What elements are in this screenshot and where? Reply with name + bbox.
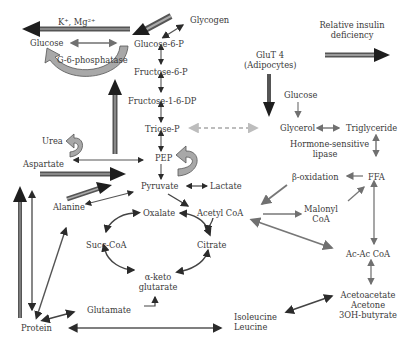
label-isoleucine-leucine: Isoleucine Leucine [234,312,277,332]
label-glut4: GluT 4 (Adipocytes) [244,50,296,70]
label-3oh-butyrate: 3OH-butyrate [335,310,401,320]
insulin-deficiency-arrow [325,48,390,62]
label-glycerol: Glycerol [280,123,315,133]
label-oxalate: Oxalate [143,208,175,218]
label-fructose-6-p: Fructose-6-P [134,67,188,77]
label-glut4-line1: GluT 4 [244,50,296,60]
label-hsl-line1: Hormone-sensitive [290,139,360,149]
protein-alanine-arrow [38,228,66,313]
label-isoleucine: Isoleucine [234,312,277,322]
protein-aspartate-thick-arrow [13,186,27,318]
tca-aketo-citrate-arc [182,250,208,271]
label-citrate: Citrate [197,240,227,250]
glycogenolysis-thick-arrow [132,16,171,35]
label-alpha-ketoglutarate: α-keto glutarate [138,272,178,292]
tca-succcoa-aketo-arc [105,250,134,270]
label-urea: Urea [42,136,63,146]
label-glucose-6-p: Glucose-6-P [134,39,184,49]
label-glut4-line2: (Adipocytes) [244,60,296,70]
label-succ-coa: Succ-CoA [86,240,126,250]
label-aspartate: Aspartate [23,159,64,169]
label-leucine: Leucine [234,322,277,332]
label-pep: PEP [155,153,172,163]
glut4-down-arrow [263,74,275,117]
malonyl-ffa-arrow [348,187,364,201]
glycogen-g6p-arrow [167,25,183,35]
label-ffa: FFA [368,172,385,182]
pyruvate-acetylcoa-arrow [168,194,188,206]
tca-oxalate-succcoa-arc [106,213,134,232]
label-pyruvate: Pyruvate [141,181,178,191]
label-protein: Protein [21,323,52,333]
label-triglyceride: Triglyceride [346,123,397,133]
label-acetoacetate: Acetoacetate [335,290,401,300]
label-malonyl-coa: Malonyl CoA [303,204,339,224]
protein-glutamate-arrow [48,312,74,319]
label-acetone: Acetone [335,300,401,310]
label-ac-ac-coa: Ac-Ac CoA [346,249,390,259]
label-beta-oxidation: β-oxidation [292,172,339,182]
label-g6-phosphatase: G-6-phosphatase [57,55,128,65]
betaox-acetylcoa-arrow [262,185,287,204]
label-malonyl-line1: Malonyl [303,204,339,214]
label-triose-p: Triose-P [145,124,180,134]
label-acetyl-coa: Acetyl CoA [197,208,243,218]
label-hormone-sensitive-lipase: Hormone-sensitive lipase [290,139,360,159]
label-ions: K⁺, Mg²⁺ [58,17,95,27]
label-glutamate: Glutamate [87,305,131,315]
label-lactate: Lactate [210,181,242,191]
aketo-glutamate-arrow [144,297,155,306]
pep-curved-arrow [176,146,197,176]
gluconeogenesis-up-arrow [108,79,122,154]
urea-curved-arrow [66,134,83,157]
acetylcoa-acaccoa-arrow [258,222,332,248]
label-alanine: Alanine [53,202,85,212]
label-glucose-adipocyte: Glucose [284,90,317,100]
label-insulin-deficiency: Relative insulin deficiency [314,20,390,40]
acetylcoa-citrate-arrow [207,218,213,232]
label-glycogen: Glycogen [190,15,229,25]
label-alpha-keto-line2: glutarate [138,282,178,292]
label-hsl-line2: lipase [290,149,360,159]
label-fructose-1-6-dp: Fructose-1-6-DP [128,96,196,106]
label-insulin-line2: deficiency [314,30,390,40]
label-alpha-keto-line1: α-keto [138,272,178,282]
aspartate-pyruvate-thick-arrow [40,167,126,181]
label-glucose: Glucose [30,38,63,48]
label-insulin-line1: Relative insulin [314,20,390,30]
label-ketone-bodies: Acetoacetate Acetone 3OH-butyrate [335,290,401,320]
label-malonyl-line2: CoA [303,214,339,224]
alanine-pyruvate-thick-arrow [67,182,112,199]
leucine-ketones-arrow [292,296,332,310]
alanine-pyruvate-arrow [90,192,133,203]
